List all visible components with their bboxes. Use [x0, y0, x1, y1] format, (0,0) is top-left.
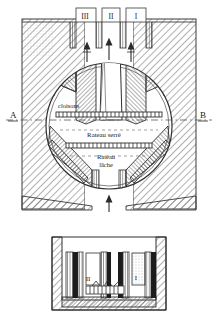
annotation-rateau-lache-line1: Rateau: [97, 153, 116, 160]
top-label-II: II: [109, 12, 114, 21]
annotation-rateau-serre: Rateau serré: [87, 131, 121, 138]
section-marker-a: A: [10, 110, 17, 120]
diagram-canvas: III II I A B cloisons Rateau serré Ratea…: [0, 0, 218, 316]
top-label-III: III: [81, 12, 89, 21]
annotation-rateau-lache-line2: lâche: [99, 161, 113, 168]
technical-diagram-figure: III II I A B cloisons Rateau serré Ratea…: [0, 0, 218, 316]
main-sectional-view: [6, 8, 212, 212]
section-marker-b: B: [200, 110, 206, 120]
bottom-label-II: II: [86, 275, 91, 283]
annotation-cloisons: cloisons: [58, 102, 80, 109]
